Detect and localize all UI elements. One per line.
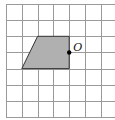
point-o: [67, 50, 71, 54]
grid-figure: O: [0, 0, 115, 120]
point-o-label: O: [73, 41, 82, 54]
